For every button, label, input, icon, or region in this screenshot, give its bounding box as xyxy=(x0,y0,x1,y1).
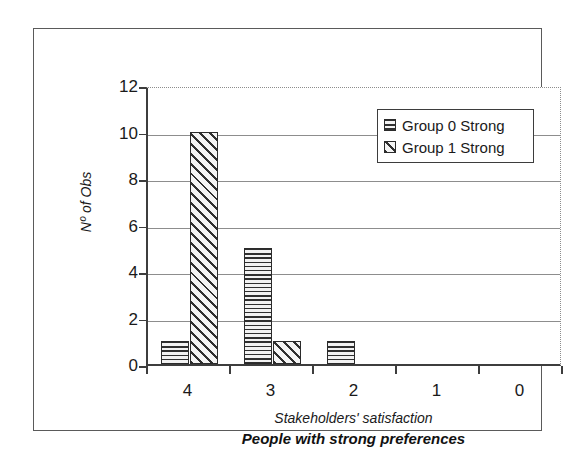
y-axis-tick-mark xyxy=(139,180,146,182)
y-axis-tick-label: 8 xyxy=(112,171,138,188)
y-axis-tick-label: 6 xyxy=(112,218,138,235)
legend-item-group-0-strong: Group 0 Strong xyxy=(384,114,527,136)
figure-frame: Nº of Obs 024681012 43210 Stakeholders' … xyxy=(33,28,542,431)
bar xyxy=(327,341,355,364)
x-axis-tick-label: 0 xyxy=(500,381,540,401)
legend-item-group-1-strong: Group 1 Strong xyxy=(384,136,527,158)
y-axis-tick-mark xyxy=(139,366,146,368)
x-axis-title: Stakeholders' satisfaction xyxy=(146,410,561,426)
legend-label: Group 1 Strong xyxy=(402,140,505,155)
x-axis-tick-mark xyxy=(561,366,563,374)
chart-title: People with strong preferences xyxy=(146,430,561,447)
bar xyxy=(244,248,272,364)
x-axis-tick-mark xyxy=(229,366,231,374)
x-axis-tick-label: 1 xyxy=(417,381,457,401)
x-axis-tick-mark xyxy=(312,366,314,374)
y-axis-tick-label: 4 xyxy=(112,264,138,281)
x-axis-tick-label: 2 xyxy=(334,381,374,401)
bar xyxy=(273,341,301,364)
legend-label: Group 0 Strong xyxy=(402,118,505,133)
y-axis-tick-label: 10 xyxy=(112,125,138,142)
x-axis-tick-mark xyxy=(395,366,397,374)
x-axis-tick-label: 4 xyxy=(168,381,208,401)
x-axis-tick-label: 3 xyxy=(251,381,291,401)
bar xyxy=(190,132,218,365)
bar xyxy=(161,341,189,364)
legend-swatch-diagonal-hatch-icon xyxy=(384,141,396,153)
y-axis-tick-label: 2 xyxy=(112,311,138,328)
legend-swatch-horizontal-lines-icon xyxy=(384,119,396,131)
y-axis-tick-mark xyxy=(139,134,146,136)
x-axis-tick-mark xyxy=(478,366,480,374)
y-axis-tick-mark xyxy=(139,273,146,275)
y-axis-tick-label: 12 xyxy=(112,78,138,95)
y-axis-tick-label: 0 xyxy=(112,357,138,374)
chart-legend: Group 0 Strong Group 1 Strong xyxy=(377,109,534,163)
x-axis-tick-mark xyxy=(146,366,148,374)
y-axis-tick-mark xyxy=(139,227,146,229)
y-axis-tick-labels: 024681012 xyxy=(82,29,138,456)
y-axis-tick-mark xyxy=(139,320,146,322)
y-axis-tick-mark xyxy=(139,87,146,89)
